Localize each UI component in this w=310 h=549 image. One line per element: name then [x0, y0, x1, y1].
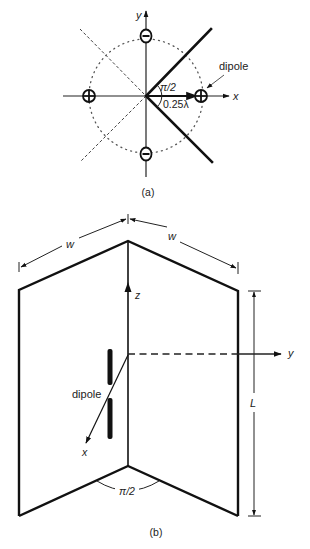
dipole-lower-arm: [108, 398, 113, 439]
dipole-upper-arm: [108, 349, 113, 385]
w-dimension-right-arrow-b: [180, 242, 236, 268]
dipole-pointer-arrow: [207, 75, 224, 88]
z-axis-label: z: [134, 289, 141, 301]
angle-label-b: π/2: [119, 485, 135, 497]
w-label-left: w: [66, 238, 75, 250]
charge-minus-bottom: [141, 148, 152, 161]
charge-plus-left: [83, 90, 95, 102]
part-b-corner-reflector-3d: z w w L y x dipole π/2 (b): [19, 214, 295, 538]
charge-plus-right: [195, 90, 207, 102]
w-dimension-right-arrow-a: [130, 219, 167, 227]
dipole-label-b: dipole: [72, 388, 101, 400]
x-axis-label-a: x: [232, 90, 239, 102]
image-plane-line-upper-left: [80, 29, 146, 96]
w-dimension-left-arrow-b: [79, 219, 126, 238]
y-axis-label-a: y: [135, 9, 143, 21]
z-axis-arrowhead: [125, 282, 132, 292]
part-a-image-theory-diagram: x y π/2 0.25λ dipole: [63, 9, 248, 198]
dipole-label-a: dipole: [219, 60, 248, 72]
w-dimension-left-arrow-a: [21, 246, 62, 267]
distance-label-a: 0.25λ: [163, 98, 189, 110]
l-label: L: [250, 397, 256, 409]
angle-label-a: π/2: [160, 81, 176, 93]
y-axis-label-b: y: [287, 347, 295, 359]
charge-minus-top: [141, 30, 152, 43]
w-label-right: w: [168, 230, 177, 242]
x-axis-label-b: x: [81, 446, 88, 458]
caption-b: (b): [150, 526, 163, 538]
corner-reflector-figure: x y π/2 0.25λ dipole: [0, 0, 310, 549]
caption-a: (a): [142, 186, 155, 198]
